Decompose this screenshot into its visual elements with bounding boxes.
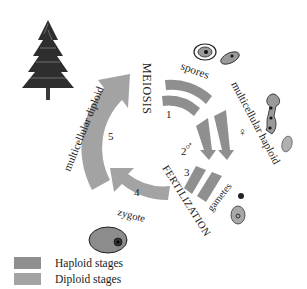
stage-label-spores: spores bbox=[179, 60, 212, 82]
diploid-swatch bbox=[14, 273, 41, 285]
legend-item-diploid: Diploid stages bbox=[14, 272, 123, 286]
stage-number-5: 5 bbox=[108, 130, 114, 142]
pine-tree-icon bbox=[22, 20, 74, 100]
spore-cells-icon bbox=[194, 44, 241, 67]
life-cycle-diagram: MEIOSIS FERTILIZATION spores multicellul… bbox=[0, 0, 307, 289]
legend: Haploid stages Diploid stages bbox=[14, 256, 123, 288]
stage-label-zygote: zygote bbox=[116, 206, 146, 224]
haploid-swatch bbox=[14, 257, 41, 269]
legend-label-haploid: Haploid stages bbox=[55, 257, 123, 269]
diploid-arrow-4 bbox=[110, 168, 170, 200]
gamete-cells-icon bbox=[231, 193, 245, 224]
haploid-arcs-2 bbox=[196, 110, 234, 160]
legend-item-haploid: Haploid stages bbox=[14, 256, 123, 270]
zygote-cell-icon bbox=[89, 227, 127, 253]
male-symbol-icon: ♂ bbox=[184, 139, 193, 153]
legend-label-diploid: Diploid stages bbox=[55, 273, 121, 285]
stage-number-1: 1 bbox=[166, 108, 172, 120]
meiosis-label: MEIOSIS bbox=[140, 63, 154, 115]
stage-number-3: 3 bbox=[184, 166, 190, 178]
stage-number-4: 4 bbox=[134, 186, 140, 198]
female-symbol-icon: ♀ bbox=[238, 125, 247, 139]
